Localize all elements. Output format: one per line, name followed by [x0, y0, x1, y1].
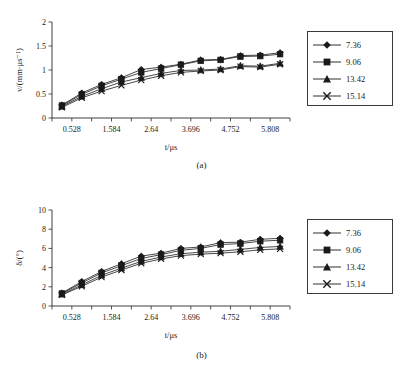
legend-label: 7.36 — [342, 228, 361, 238]
panel-b-caption: (b) — [0, 350, 403, 360]
legend-label: 13.42 — [342, 74, 365, 84]
legend-item-7-36: 7.36 — [312, 36, 386, 53]
svg-text:t/μs: t/μs — [165, 330, 178, 340]
legend-item-13-42: 13.42 — [312, 70, 386, 87]
svg-text:4: 4 — [42, 264, 46, 273]
svg-text:6: 6 — [42, 244, 46, 253]
svg-text:0.5: 0.5 — [36, 90, 46, 99]
svg-text:v/(mm·μs⁻¹): v/(mm·μs⁻¹) — [14, 48, 24, 92]
diamond-marker-icon — [312, 226, 342, 240]
svg-text:2: 2 — [42, 283, 46, 292]
legend-label: 15.14 — [342, 91, 365, 101]
svg-text:3.696: 3.696 — [182, 313, 200, 322]
legend-item-15-14: 15.14 — [312, 87, 386, 104]
svg-text:1.584: 1.584 — [103, 313, 121, 322]
legend-item-9-06: 9.06 — [312, 53, 386, 70]
cross-marker-icon — [312, 277, 342, 291]
legend-item-7-36: 7.36 — [312, 224, 386, 241]
diamond-marker-icon — [312, 38, 342, 52]
svg-text:2: 2 — [42, 18, 46, 27]
square-marker-icon — [312, 55, 342, 69]
square-marker-icon — [312, 243, 342, 257]
svg-text:2.64: 2.64 — [144, 313, 158, 322]
figure-container: 00.511.520.5281.5842.643.6964.7525.808t/… — [0, 0, 403, 377]
cross-marker-icon — [312, 89, 342, 103]
triangle-marker-icon — [312, 260, 342, 274]
svg-text:10: 10 — [38, 206, 46, 215]
svg-text:5.808: 5.808 — [261, 313, 279, 322]
svg-text:t/μs: t/μs — [165, 142, 178, 152]
svg-text:5.808: 5.808 — [261, 125, 279, 134]
svg-text:1.5: 1.5 — [36, 42, 46, 51]
svg-text:0: 0 — [42, 114, 46, 123]
svg-text:0: 0 — [42, 302, 46, 311]
svg-text:0.528: 0.528 — [63, 125, 81, 134]
legend-panel-b: 7.36 9.06 13.42 15.14 — [307, 219, 393, 294]
svg-text:8: 8 — [42, 225, 46, 234]
legend-label: 15.14 — [342, 279, 365, 289]
legend-label: 9.06 — [342, 57, 361, 67]
svg-text:1: 1 — [42, 66, 46, 75]
legend-label: 7.36 — [342, 40, 361, 50]
legend-item-15-14: 15.14 — [312, 275, 386, 292]
legend-item-13-42: 13.42 — [312, 258, 386, 275]
svg-text:0.528: 0.528 — [63, 313, 81, 322]
svg-text:1.584: 1.584 — [103, 125, 121, 134]
legend-label: 13.42 — [342, 262, 365, 272]
svg-text:4.752: 4.752 — [222, 313, 240, 322]
legend-label: 9.06 — [342, 245, 361, 255]
svg-text:3.696: 3.696 — [182, 125, 200, 134]
svg-text:4.752: 4.752 — [222, 125, 240, 134]
panel-a-caption: (a) — [0, 160, 403, 170]
legend-item-9-06: 9.06 — [312, 241, 386, 258]
legend-panel-a: 7.36 9.06 13.42 15.14 — [307, 31, 393, 106]
triangle-marker-icon — [312, 72, 342, 86]
svg-text:2.64: 2.64 — [144, 125, 158, 134]
svg-text:δ/(°): δ/(°) — [14, 250, 24, 266]
